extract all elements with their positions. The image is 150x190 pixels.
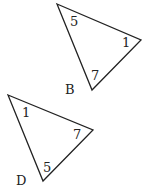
triangle-d-angle-right: 7 bbox=[73, 127, 81, 142]
triangle-b-angle-right: 1 bbox=[122, 35, 130, 50]
triangle-b-angle-bottom: 7 bbox=[91, 68, 99, 83]
triangle-d-angle-bottom: 5 bbox=[43, 160, 51, 175]
triangle-b: 5 1 7 B bbox=[57, 4, 141, 97]
triangle-d-label: D bbox=[16, 173, 26, 188]
triangles-diagram: 5 1 7 B 1 7 5 D bbox=[0, 0, 150, 190]
triangle-b-angle-top: 5 bbox=[70, 14, 78, 29]
triangle-b-label: B bbox=[65, 82, 75, 97]
triangle-d: 1 7 5 D bbox=[8, 95, 93, 188]
triangle-d-angle-top: 1 bbox=[22, 105, 30, 120]
